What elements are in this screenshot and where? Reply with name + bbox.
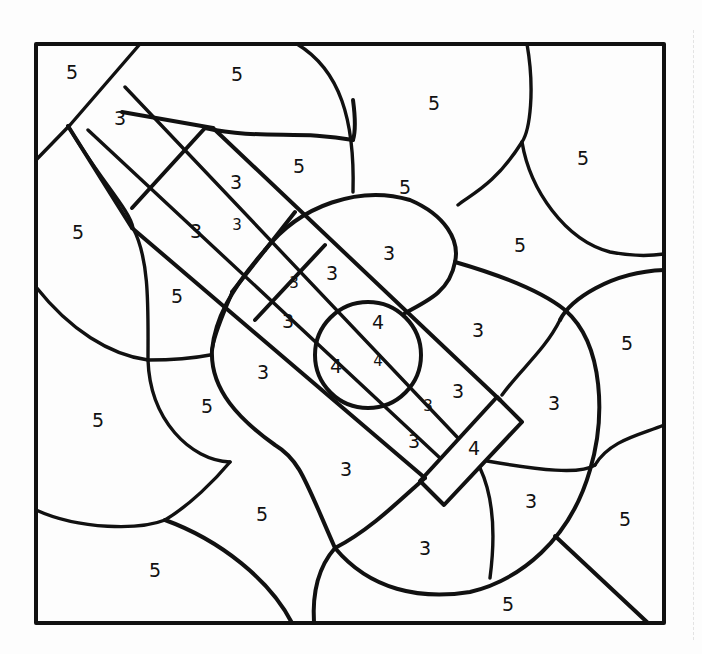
region-number-label: 5 [171, 285, 183, 307]
region-number-label: 3 [289, 274, 299, 292]
region-number-label: 3 [548, 392, 560, 414]
region-number-label: 4 [372, 311, 384, 333]
region-number-label: 3 [257, 361, 269, 383]
region-number-label: 5 [231, 63, 243, 85]
region-number-label: 3 [326, 262, 338, 284]
region-number-label: 3 [114, 107, 126, 129]
region-number-label: 4 [330, 355, 342, 377]
region-number-label: 5 [72, 221, 84, 243]
region-number-label: 3 [383, 242, 395, 264]
region-number-label: 5 [619, 508, 631, 530]
region-number-label: 4 [373, 352, 383, 370]
region-number-label: 5 [621, 332, 633, 354]
region-number-label: 3 [190, 220, 202, 242]
region-number-label: 5 [502, 593, 514, 615]
background-shapes [36, 44, 664, 623]
region-number-label: 3 [340, 458, 352, 480]
region-number-label: 3 [452, 380, 464, 402]
region-number-label: 5 [92, 409, 104, 431]
region-number-label: 3 [232, 216, 242, 234]
region-number-label: 3 [419, 537, 431, 559]
region-number-label: 5 [256, 503, 268, 525]
region-number-label: 5 [201, 395, 213, 417]
region-number-label: 5 [514, 234, 526, 256]
region-number-label: 5 [428, 92, 440, 114]
coloring-page: 5555355335335335343544333535343535355 [0, 0, 702, 654]
region-number-label: 3 [423, 397, 433, 415]
guitar-coloring-drawing: 5555355335335335343544333535343535355 [0, 0, 702, 654]
region-number-label: 3 [408, 430, 420, 452]
region-number-label: 3 [472, 319, 484, 341]
region-number-label: 3 [230, 171, 242, 193]
region-number-label: 5 [149, 559, 161, 581]
region-number-label: 3 [282, 310, 294, 332]
region-number-label: 4 [468, 437, 480, 459]
region-number-label: 3 [525, 490, 537, 512]
guitar-neck [68, 87, 522, 505]
region-number-label: 5 [66, 61, 78, 83]
region-number-label: 5 [399, 176, 411, 198]
region-number-label: 5 [577, 147, 589, 169]
region-number-label: 5 [293, 155, 305, 177]
